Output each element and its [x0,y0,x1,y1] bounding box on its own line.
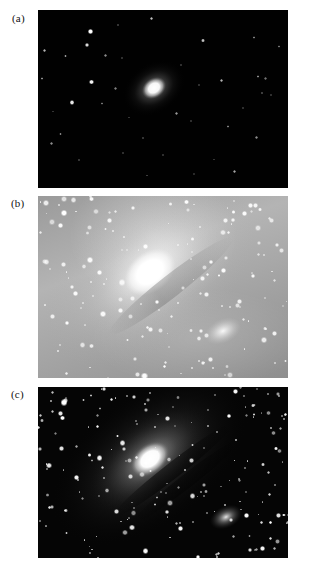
panel-c-correct-exposure [38,387,288,558]
panel-c-image [38,387,288,558]
panel-b-overexposed [38,196,288,378]
companion-galaxy-c [206,500,246,534]
galaxy-a-body [112,48,196,128]
galaxy-b-body [38,196,288,378]
panel-a-image [38,10,288,188]
panel-a-short-exposure [38,10,288,188]
galaxy-b-svg [38,196,288,378]
panel-label-a: (a) [12,13,25,24]
galaxy-a-svg [38,10,288,188]
panel-label-c: (c) [11,389,24,400]
galaxy-c-body [38,387,282,558]
panel-b-image [38,196,288,378]
galaxy-c-svg [38,387,288,558]
panel-label-b: (b) [11,198,24,209]
figure-container: (a) [0,0,310,570]
